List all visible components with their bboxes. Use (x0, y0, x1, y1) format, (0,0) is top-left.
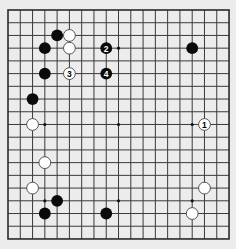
black-stone (39, 208, 51, 220)
black-stone (51, 195, 63, 207)
white-stone (199, 182, 211, 194)
move-number-label: 2 (104, 44, 109, 54)
white-stone (39, 157, 51, 169)
white-stone-disc (199, 182, 211, 194)
white-stone-disc (186, 208, 198, 220)
go-board[interactable]: 2341 (0, 0, 236, 249)
black-stone (51, 30, 63, 42)
star-point (117, 47, 120, 50)
black-stone-disc (186, 42, 198, 54)
star-point (117, 199, 120, 202)
move-number-label: 1 (202, 120, 207, 130)
white-stone-disc (64, 30, 76, 42)
white-stone: 3 (64, 68, 76, 80)
white-stone (27, 119, 39, 131)
star-point (117, 123, 120, 126)
white-stone-disc (64, 42, 76, 54)
white-stone (186, 208, 198, 220)
white-stone (64, 42, 76, 54)
star-point (43, 199, 46, 202)
black-stone-disc (51, 195, 63, 207)
black-stone (39, 68, 51, 80)
white-stone-disc (27, 119, 39, 131)
black-stone (39, 42, 51, 54)
move-number-label: 4 (104, 69, 109, 79)
white-stone-disc (27, 182, 39, 194)
move-number-label: 3 (67, 69, 72, 79)
black-stone (186, 42, 198, 54)
white-stone (27, 182, 39, 194)
star-point (43, 123, 46, 126)
black-stone-disc (27, 93, 39, 105)
black-stone-disc (39, 42, 51, 54)
black-stone-disc (39, 68, 51, 80)
black-stone (100, 208, 112, 220)
black-stone: 4 (100, 68, 112, 80)
black-stone: 2 (100, 42, 112, 54)
star-point (191, 199, 194, 202)
white-stone (64, 30, 76, 42)
black-stone-disc (51, 30, 63, 42)
white-stone-disc (39, 157, 51, 169)
black-stone-disc (39, 208, 51, 220)
black-stone-disc (100, 208, 112, 220)
star-point (191, 123, 194, 126)
white-stone: 1 (199, 119, 211, 131)
black-stone (27, 93, 39, 105)
